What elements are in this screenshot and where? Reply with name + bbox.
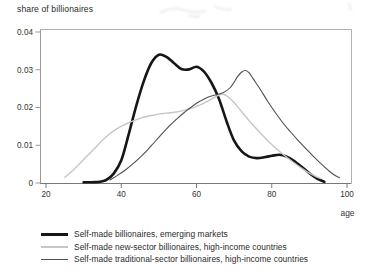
legend-line-swatch-traditional [41,259,68,260]
legend-line-swatch-emerging [41,233,68,236]
y-tick-label: 0.04 [17,28,33,37]
legend-item-emerging: Self-made billionaires, emerging markets [41,228,366,241]
legend-item-traditional: Self-made traditional-sector billionaire… [41,253,366,266]
x-tick-label: 20 [41,190,51,199]
legend: Self-made billionaires, emerging markets… [41,228,366,266]
x-tick-label: 100 [340,190,354,199]
billionaire-age-distribution-figure: share of billionaires 00.010.020.030.042… [0,0,371,280]
scan-artifact [160,3,351,17]
legend-label-emerging: Self-made billionaires, emerging markets [74,229,228,239]
y-tick-label: 0.02 [17,103,33,112]
x-axis-label: age [341,208,355,218]
y-tick-label: 0 [28,179,33,188]
series-traditional-sector [110,70,340,180]
x-tick-label: 60 [192,190,202,199]
legend-line-swatch-new-sector [41,246,68,247]
legend-item-new-sector: Self-made new-sector billionaires, high-… [41,241,366,254]
y-tick-label: 0.01 [17,141,33,150]
x-tick-label: 80 [267,190,277,199]
series-emerging-markets [84,54,325,182]
legend-label-traditional: Self-made traditional-sector billionaire… [74,254,308,264]
legend-label-new-sector: Self-made new-sector billionaires, high-… [74,242,287,252]
series-new-sector [65,94,321,178]
y-tick-label: 0.03 [17,66,33,75]
x-tick-label: 40 [117,190,127,199]
